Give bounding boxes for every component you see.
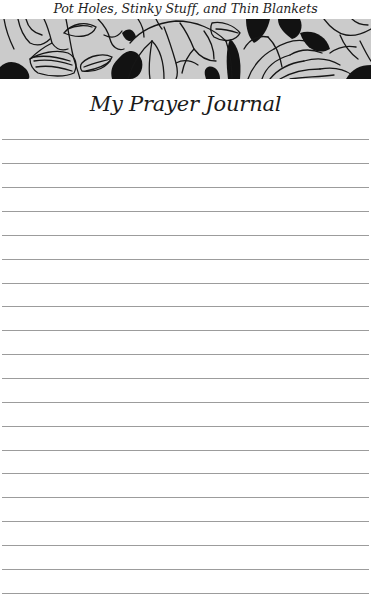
ruled-line — [2, 473, 369, 474]
ruled-line — [2, 378, 369, 379]
ruled-line — [2, 235, 369, 236]
ruled-line — [2, 354, 369, 355]
ruled-line — [2, 545, 369, 546]
ruled-writing-area[interactable] — [2, 0, 369, 612]
ruled-line — [2, 163, 369, 164]
ruled-line — [2, 450, 369, 451]
ruled-line — [2, 497, 369, 498]
ruled-line — [2, 211, 369, 212]
ruled-line — [2, 187, 369, 188]
ruled-line — [2, 330, 369, 331]
ruled-line — [2, 283, 369, 284]
ruled-line — [2, 259, 369, 260]
ruled-line — [2, 139, 369, 140]
ruled-line — [2, 426, 369, 427]
ruled-line — [2, 593, 369, 594]
ruled-line — [2, 306, 369, 307]
ruled-line — [2, 521, 369, 522]
ruled-line — [2, 569, 369, 570]
ruled-line — [2, 402, 369, 403]
